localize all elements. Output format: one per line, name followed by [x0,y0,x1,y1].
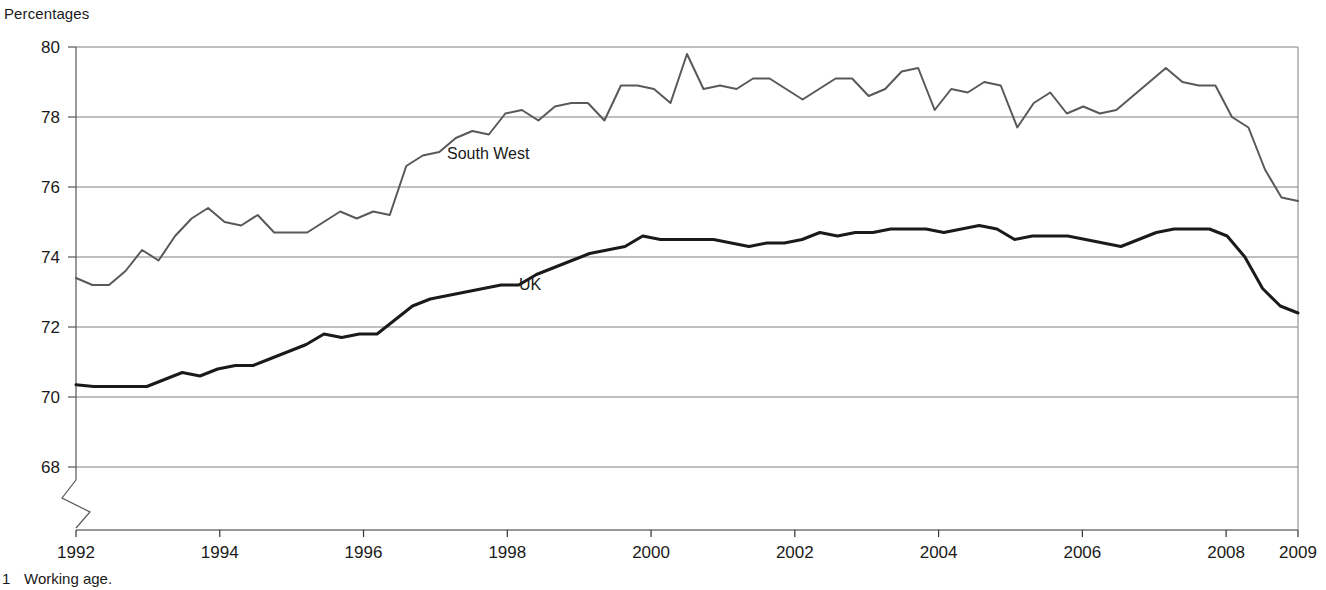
x-axis-tick-label: 2006 [1063,543,1101,560]
x-axis-tick-label: 1996 [345,543,383,560]
y-axis-break-symbol [62,480,90,528]
x-axis-tick-label: 2008 [1207,543,1245,560]
y-axis-tick-label: 68 [41,458,60,477]
footnote-number: 1 [2,570,24,587]
x-axis-tick-label: 2002 [776,543,814,560]
footnote: 1Working age. [2,570,112,587]
line-chart-svg: 68707274767880 1992199419961998200020022… [0,0,1326,560]
y-axis-tick-label: 78 [41,108,60,127]
series-line-uk [76,226,1298,387]
x-axis-tick-label: 1994 [201,543,239,560]
x-axis-tick-label: 1992 [57,543,95,560]
y-axis-group: 68707274767880 [41,38,90,528]
series-label-uk: UK [519,276,542,293]
x-axis-tick-label: 2004 [920,543,958,560]
series-labels-group: South WestUK [447,145,542,293]
x-axis-tick-label: 2000 [632,543,670,560]
footnote-text: Working age. [24,570,112,587]
y-axis-tick-label: 70 [41,388,60,407]
x-axis-tick-label: 1998 [488,543,526,560]
y-axis-tick-label: 72 [41,318,60,337]
series-label-south-west: South West [447,145,530,162]
chart-page: Percentages 68707274767880 1992199419961… [0,0,1326,590]
y-axis-tick-label: 80 [41,38,60,57]
data-series-group [76,54,1298,387]
series-line-south-west [76,54,1298,285]
x-axis-group: 1992199419961998200020022004200620082009 [57,47,1317,560]
y-axis-tick-label: 76 [41,178,60,197]
x-axis-tick-label: 2009 [1279,543,1317,560]
chart-plot-area: 68707274767880 1992199419961998200020022… [0,0,1326,560]
y-axis-tick-label: 74 [41,248,60,267]
